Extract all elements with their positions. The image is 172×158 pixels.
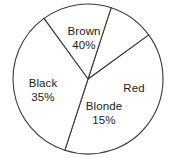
pie-label-blonde-name: Blonde bbox=[75, 99, 133, 113]
pie-label-blonde: Blonde 15% bbox=[75, 99, 133, 127]
pie-label-red: Red bbox=[117, 81, 151, 95]
pie-label-red-name: Red bbox=[117, 81, 151, 95]
pie-label-black-name: Black bbox=[15, 76, 71, 90]
pie-label-black: Black 35% bbox=[15, 76, 71, 104]
pie-label-brown: Brown 40% bbox=[53, 24, 115, 52]
pie-label-brown-name: Brown bbox=[53, 24, 115, 38]
pie-label-brown-value: 40% bbox=[53, 38, 115, 52]
pie-label-blonde-value: 15% bbox=[75, 113, 133, 127]
pie-chart: Brown 40% Black 35% Blonde 15% Red bbox=[0, 0, 172, 158]
pie-label-black-value: 35% bbox=[15, 90, 71, 104]
